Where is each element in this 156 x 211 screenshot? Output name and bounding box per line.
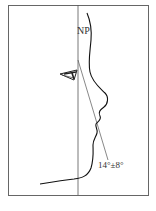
eye-icon xyxy=(60,70,77,80)
angle-label: 14°±8° xyxy=(98,161,124,170)
profile-angle-diagram: NP 14°±8° xyxy=(0,0,156,211)
np-label: NP xyxy=(77,26,90,36)
facial-profile-curve xyxy=(40,13,108,184)
